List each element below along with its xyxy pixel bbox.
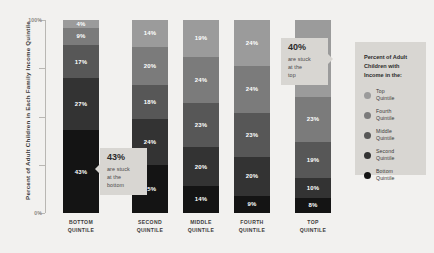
- bar-segment: 19%: [295, 142, 331, 179]
- bar-segment: 20%: [132, 47, 168, 85]
- legend-swatch-icon: [364, 92, 371, 99]
- bar-segment-label: 17%: [75, 59, 88, 65]
- bar-segment: 8%: [295, 198, 331, 213]
- x-axis-label-line1: FOURTH: [234, 219, 270, 227]
- bar-stack: 19%24%23%20%14%: [183, 20, 219, 213]
- x-axis-label-line2: QUINTILE: [234, 227, 270, 235]
- bar-segment-label: 8%: [308, 202, 317, 208]
- legend-item-label: MiddleQuintile: [376, 128, 394, 144]
- y-axis-tick-label: 0%: [20, 210, 42, 216]
- callout-top-line1: are stuck: [288, 55, 322, 63]
- legend-item-label: BottomQuintile: [376, 168, 394, 184]
- bar-segment: 23%: [295, 97, 331, 141]
- x-axis-label-line1: BOTTOM: [63, 219, 99, 227]
- bar-segment-label: 9%: [247, 201, 256, 207]
- legend-item-label-line2: Quintile: [376, 95, 394, 103]
- bar-segment: 43%: [63, 130, 99, 213]
- callout-top-quintile: 40% are stuck at the top: [281, 38, 328, 85]
- bar-segment-label: 23%: [246, 132, 259, 138]
- x-axis-label-line2: QUINTILE: [183, 227, 219, 235]
- bar-segment-label: 10%: [307, 185, 320, 191]
- legend-item-label: TopQuintile: [376, 88, 394, 104]
- bar-segment: 24%: [234, 20, 270, 66]
- x-axis-label: FOURTHQUINTILE: [234, 219, 270, 235]
- callout-bottom-text: are stuck at the bottom: [107, 165, 141, 189]
- bar-segment: 9%: [63, 28, 99, 45]
- legend-item: TopQuintile: [364, 88, 426, 104]
- bar-segment: 24%: [234, 66, 270, 112]
- bar-segment: 14%: [132, 20, 168, 47]
- bar-segment: 20%: [183, 147, 219, 186]
- legend-item: SecondQuintile: [364, 148, 426, 164]
- callout-top-value: 40%: [288, 43, 322, 53]
- callout-bottom-line3: bottom: [107, 181, 141, 189]
- y-axis-line: [45, 20, 46, 213]
- bar-segment-label: 23%: [195, 122, 208, 128]
- legend-item-label-line1: Second: [376, 148, 394, 156]
- x-axis-label-line1: SECOND: [132, 219, 168, 227]
- callout-bottom-line1: are stuck: [107, 165, 141, 173]
- callout-top-text: are stuck at the top: [288, 55, 322, 79]
- legend-item-label-line1: Top: [376, 88, 394, 96]
- legend-swatch-icon: [364, 152, 371, 159]
- legend-swatch-icon: [364, 132, 371, 139]
- bar-stack: 24%24%23%20%9%: [234, 20, 270, 213]
- bar-segment-label: 20%: [195, 164, 208, 170]
- legend-swatch-icon: [364, 112, 371, 119]
- bar-middle-quintile: 19%24%23%20%14%MIDDLEQUINTILE: [183, 20, 219, 213]
- bar-segment: 18%: [132, 85, 168, 119]
- bar-segment: 4%: [63, 20, 99, 28]
- legend-item-label-line1: Middle: [376, 128, 394, 136]
- callout-arrow-icon: [328, 54, 333, 64]
- bar-segment-label: 24%: [246, 86, 259, 92]
- bar-segment: 17%: [63, 45, 99, 78]
- legend-item-label-line1: Bottom: [376, 168, 394, 176]
- bar-segment-label: 20%: [144, 63, 157, 69]
- bar-stack: 4%9%17%27%43%: [63, 20, 99, 213]
- bar-segment: 10%: [295, 178, 331, 197]
- y-axis-tick: [39, 117, 45, 118]
- bar-segment-label: 23%: [307, 116, 320, 122]
- x-axis-label: TOPQUINTILE: [295, 219, 331, 235]
- y-axis-tick-label: 100%: [20, 17, 42, 23]
- callout-bottom-value: 43%: [107, 153, 141, 163]
- bar-segment: 19%: [183, 20, 219, 57]
- callout-bottom-quintile: 43% are stuck at the bottom: [100, 148, 147, 195]
- x-axis-label: SECONDQUINTILE: [132, 219, 168, 235]
- bar-segment-label: 4%: [76, 21, 85, 27]
- y-axis-tick: [39, 165, 45, 166]
- bar-segment-label: 14%: [195, 196, 208, 202]
- bar-segment: 14%: [183, 186, 219, 213]
- legend-swatch-icon: [364, 172, 371, 179]
- bar-segment-label: 24%: [195, 77, 208, 83]
- legend-title: Percent of Adult Children with Income in…: [364, 53, 420, 81]
- legend-item-label-line2: Quintile: [376, 175, 394, 183]
- callout-top-line3: top: [288, 71, 322, 79]
- x-axis-label: MIDDLEQUINTILE: [183, 219, 219, 235]
- bar-segment: 9%: [234, 196, 270, 213]
- bar-segment-label: 14%: [144, 30, 157, 36]
- legend-item-label: SecondQuintile: [376, 148, 394, 164]
- bar-segment-label: 43%: [75, 169, 88, 175]
- callout-top-line2: at the: [288, 63, 322, 71]
- bar-segment: 23%: [234, 113, 270, 157]
- legend-item: FourthQuintile: [364, 108, 426, 124]
- bar-segment-label: 9%: [76, 33, 85, 39]
- bar-bottom-quintile: 4%9%17%27%43%BOTTOMQUINTILE: [63, 20, 99, 213]
- x-axis-label-line1: MIDDLE: [183, 219, 219, 227]
- bar-fourth-quintile: 24%24%23%20%9%FOURTHQUINTILE: [234, 20, 270, 213]
- bar-segment-label: 19%: [307, 157, 320, 163]
- legend-item: MiddleQuintile: [364, 128, 426, 144]
- bar-segment-label: 20%: [246, 173, 259, 179]
- bar-segment: 23%: [183, 103, 219, 147]
- legend-item-label-line1: Fourth: [376, 108, 394, 116]
- bar-segment-label: 24%: [144, 139, 157, 145]
- callout-arrow-icon: [95, 164, 100, 174]
- x-axis-label-line2: QUINTILE: [295, 227, 331, 235]
- x-axis-label: BOTTOMQUINTILE: [63, 219, 99, 235]
- stacked-bar-chart: Percent of Adult Children in Each Family…: [0, 0, 434, 253]
- x-axis-label-line2: QUINTILE: [132, 227, 168, 235]
- legend-items: TopQuintileFourthQuintileMiddleQuintileS…: [364, 88, 426, 184]
- x-axis-label-line2: QUINTILE: [63, 227, 99, 235]
- y-axis-tick: [39, 68, 45, 69]
